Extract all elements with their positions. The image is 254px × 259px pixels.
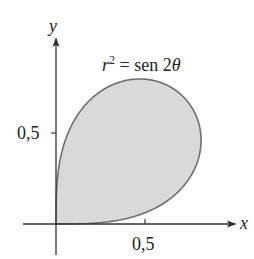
x-axis-label: x (239, 213, 248, 233)
equation-label: r2 = sen 2θ (102, 53, 181, 75)
y-tick-label: 0,5 (17, 123, 40, 143)
x-tick-label: 0,5 (132, 234, 155, 254)
y-axis-label: y (47, 16, 57, 36)
lemniscate-loop (56, 79, 201, 224)
plot-canvas: x y 0,5 0,5 r2 = sen 2θ (0, 0, 254, 259)
polar-plot: x y 0,5 0,5 r2 = sen 2θ (0, 0, 254, 259)
